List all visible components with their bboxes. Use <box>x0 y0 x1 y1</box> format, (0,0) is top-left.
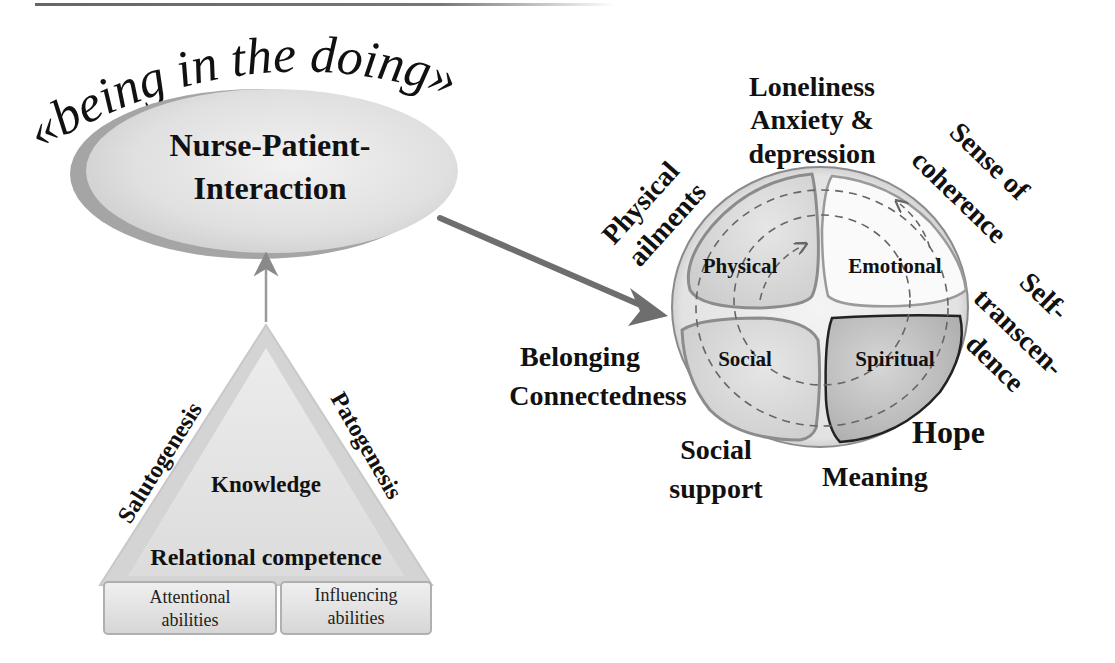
attentional-abilities-box: Attentional abilities <box>104 582 276 634</box>
svg-text:abilities: abilities <box>162 610 219 630</box>
quadrant-spiritual-label: Spiritual <box>855 347 935 371</box>
svg-text:Anxiety &: Anxiety & <box>750 104 874 135</box>
svg-text:abilities: abilities <box>328 608 385 628</box>
interaction-line-2: Interaction <box>194 170 347 206</box>
influencing-abilities-box: Influencing abilities <box>281 582 431 634</box>
quadrant-social-label: Social <box>718 347 772 371</box>
relational-competence-triangle: Knowledge Relational competence Salutoge… <box>100 325 432 585</box>
quadrant-physical-label: Physical <box>703 254 778 278</box>
svg-text:Attentional: Attentional <box>150 587 231 607</box>
label-meaning: Meaning <box>822 461 928 492</box>
wellbeing-sphere: Physical Emotional Social Spiritual <box>672 167 968 447</box>
svg-text:Loneliness: Loneliness <box>749 71 875 102</box>
knowledge-label: Knowledge <box>211 472 321 497</box>
svg-text:Connectedness: Connectedness <box>509 380 686 411</box>
label-self-transcendence: Self- transcen- dence <box>960 266 1075 398</box>
relational-competence-label: Relational competence <box>150 544 382 570</box>
svg-text:Influencing: Influencing <box>315 585 398 605</box>
svg-text:Belonging: Belonging <box>520 341 640 372</box>
label-loneliness-anxiety-depression: Loneliness Anxiety & depression <box>748 71 875 169</box>
svg-text:Social: Social <box>680 434 752 465</box>
label-belonging-connectedness: Belonging Connectedness <box>509 341 686 411</box>
label-social-support: Social support <box>669 434 763 504</box>
quadrant-social <box>682 318 820 440</box>
quadrant-emotional-label: Emotional <box>848 254 942 278</box>
nurse-patient-interaction-ellipse: Nurse-Patient- Interaction <box>70 89 458 259</box>
diagram-canvas: «being in the doing» Nurse-Patient- Inte… <box>0 0 1115 663</box>
interaction-line-1: Nurse-Patient- <box>170 127 371 163</box>
connector-arrow-icon <box>440 218 668 326</box>
svg-text:depression: depression <box>748 138 875 169</box>
label-hope: Hope <box>912 414 985 450</box>
svg-text:support: support <box>669 473 763 504</box>
